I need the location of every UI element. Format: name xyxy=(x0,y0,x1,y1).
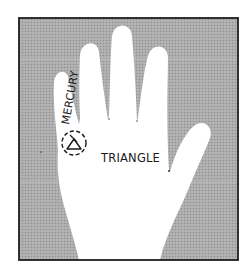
crease-mark xyxy=(136,120,138,122)
speck xyxy=(40,151,42,153)
crease-mark xyxy=(168,170,170,172)
palmistry-diagram: MERCURY TRIANGLE xyxy=(0,0,252,279)
hand-illustration: MERCURY TRIANGLE xyxy=(0,0,252,279)
triangle-label: TRIANGLE xyxy=(100,151,160,165)
crease-mark xyxy=(108,118,110,120)
